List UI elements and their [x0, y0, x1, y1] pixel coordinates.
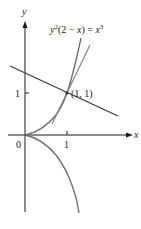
origin-label: 0: [16, 139, 21, 150]
x-axis-arrow-icon: [126, 133, 133, 138]
y-tick-label: 1: [15, 88, 20, 99]
y-axis-label: y: [21, 6, 27, 17]
tangent-line: [52, 45, 90, 124]
equation-label: y2(2 − x) = x3: [49, 23, 104, 36]
eq-close: ) =: [81, 24, 95, 36]
y-axis-arrow-icon: [23, 21, 28, 28]
x-axis-label: x: [133, 129, 139, 140]
x-tick-label: 1: [64, 139, 69, 150]
curve-lower-branch: [25, 135, 79, 213]
normal-line: [10, 66, 118, 116]
eq-middle: (2 −: [58, 24, 77, 36]
point-1-1: [65, 91, 68, 94]
figure-canvas: y x 0 1 1 (1, 1) y2(2 − x) = x3: [0, 0, 141, 229]
point-label: (1, 1): [71, 88, 93, 100]
eq-sup3: 3: [100, 23, 104, 31]
